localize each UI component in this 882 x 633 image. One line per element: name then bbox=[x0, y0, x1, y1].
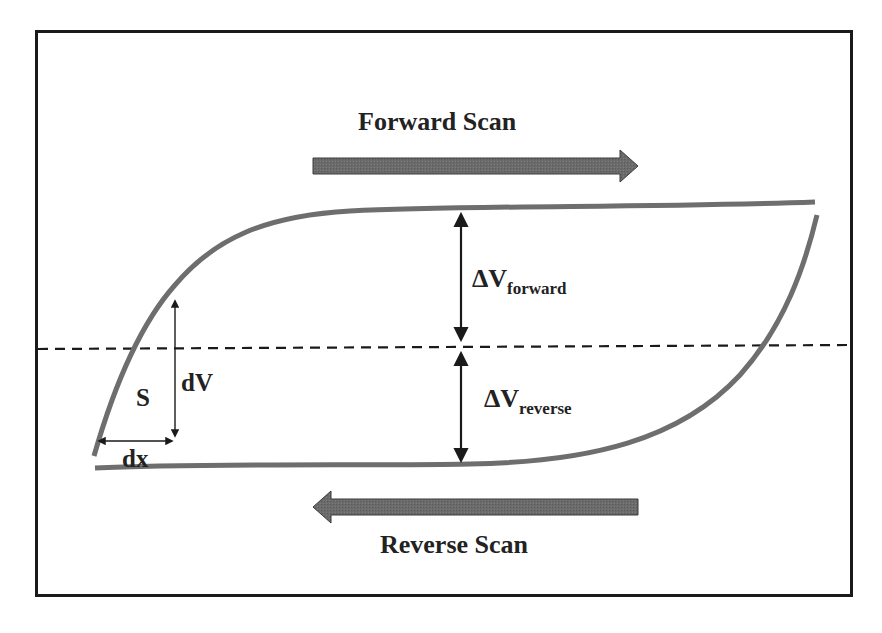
slope-s-label: S bbox=[136, 385, 150, 410]
reverse-branch-curve bbox=[95, 215, 817, 468]
delta-v-forward-symbol: ΔV bbox=[472, 264, 507, 293]
dv-label: dV bbox=[181, 370, 213, 395]
delta-v-reverse-subscript: reverse bbox=[519, 399, 572, 418]
dx-label: dx bbox=[122, 446, 148, 471]
reverse-scan-label: Reverse Scan bbox=[380, 532, 528, 558]
zero-reference-dashed-line bbox=[38, 345, 851, 349]
delta-v-reverse-label: ΔVreverse bbox=[484, 386, 572, 412]
forward-scan-arrow-icon bbox=[313, 150, 638, 182]
delta-v-forward-subscript: forward bbox=[507, 279, 566, 298]
delta-v-reverse-symbol: ΔV bbox=[484, 384, 519, 413]
hysteresis-diagram: Forward Scan Reverse Scan ΔVforward ΔVre… bbox=[0, 0, 882, 633]
forward-scan-label: Forward Scan bbox=[358, 109, 516, 135]
delta-v-forward-label: ΔVforward bbox=[472, 266, 567, 292]
reverse-scan-arrow-icon bbox=[313, 491, 638, 523]
forward-branch-curve bbox=[94, 202, 815, 456]
